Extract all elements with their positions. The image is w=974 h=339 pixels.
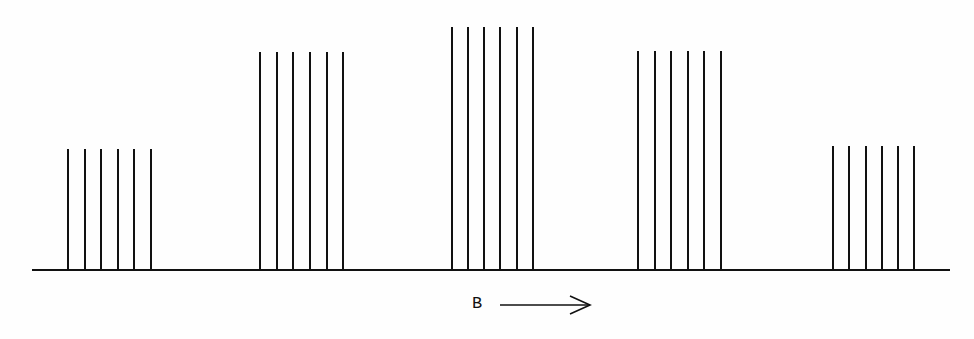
line-groups-diagram: [0, 0, 974, 339]
line-group-3: [452, 27, 533, 270]
line-group-2: [260, 52, 343, 270]
field-label-b: B: [472, 295, 482, 312]
line-group-4: [638, 51, 721, 270]
right-arrow-icon: [500, 296, 590, 314]
diagram-canvas: B: [0, 0, 974, 339]
line-groups: [68, 27, 914, 270]
line-group-5: [833, 146, 914, 270]
line-group-1: [68, 149, 151, 270]
